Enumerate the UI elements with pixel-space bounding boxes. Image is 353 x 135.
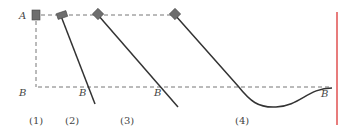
rope-4 bbox=[175, 15, 332, 107]
case-label-3: (3) bbox=[120, 115, 134, 126]
block-2 bbox=[56, 11, 67, 20]
case-label-2: (2) bbox=[65, 115, 79, 126]
case-label-4: (4) bbox=[235, 115, 249, 126]
label-B-4: B bbox=[320, 88, 328, 99]
label-B-3: B bbox=[153, 87, 161, 98]
block-4 bbox=[169, 8, 180, 19]
rope-2 bbox=[61, 16, 95, 104]
label-A: A bbox=[18, 10, 26, 21]
pendulum-diagram: A B B B B (1) (2) (3) (4) bbox=[0, 0, 353, 135]
block-3 bbox=[92, 8, 103, 19]
rope-3 bbox=[98, 15, 178, 107]
label-B-2: B bbox=[78, 87, 86, 98]
case-label-1: (1) bbox=[29, 115, 43, 126]
block-1 bbox=[32, 10, 40, 20]
label-B-left: B bbox=[18, 87, 26, 98]
